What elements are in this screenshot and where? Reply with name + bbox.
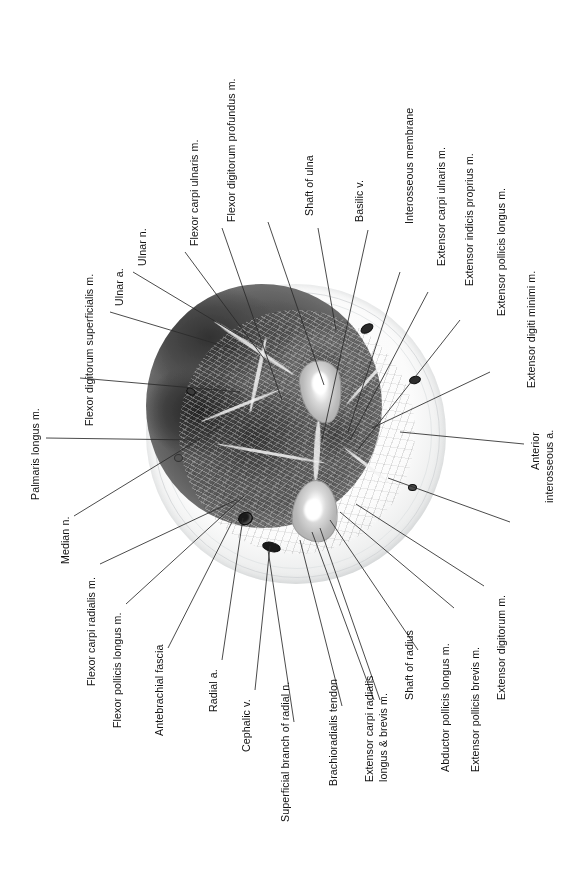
label-ecr-line1: Extensor carpi radialis [363, 675, 375, 782]
label-radial-a: Radial a. [208, 669, 220, 712]
label-extensor-digiti-minimi: Extensor digiti minimi m. [526, 271, 538, 388]
label-ulnar-n: Ulnar n. [137, 228, 149, 266]
anatomical-figure: Flexor digitorum profundus m. Flexor car… [0, 0, 583, 876]
label-aia-line2: interosseous a. [543, 430, 555, 503]
leader-palmaris-longus [46, 438, 196, 440]
label-flexor-digitorum-profundus: Flexor digitorum profundus m. [226, 78, 238, 222]
leader-basilic-v [318, 228, 336, 330]
label-interosseous-membrane: Interosseous membrane [404, 108, 416, 224]
leader-extensor-digiti-minimi [372, 372, 490, 428]
leader-extensor-digitorum [388, 478, 510, 522]
label-ecr-line2: longus & brevis m. [377, 693, 389, 782]
leader-cephalic-v [255, 546, 270, 690]
leader-radial-a [222, 518, 243, 660]
label-shaft-of-radius: Shaft of radius [404, 630, 416, 700]
leader-flexor-carpi-ulnaris [185, 252, 265, 360]
leader-extensor-carpi-ulnaris [348, 272, 400, 432]
label-flexor-digitorum-superficialis: Flexor digitorum superficialis m. [84, 274, 96, 426]
leader-fds [80, 378, 240, 392]
label-aia-line1: Anterior [529, 432, 541, 470]
leader-ulnar-n [133, 272, 243, 338]
label-cephalic-v: Cephalic v. [241, 699, 253, 752]
leader-extensor-pollicis-brevis [356, 504, 484, 586]
leader-interosseous-membrane [322, 230, 368, 440]
label-extensor-carpi-radialis-line2: longus & brevis m. [377, 693, 389, 782]
label-extensor-indicis-proprius: Extensor indicis proprius m. [464, 153, 476, 286]
label-flexor-carpi-ulnaris: Flexor carpi ulnaris m. [189, 140, 201, 247]
leader-antebrachial-fascia [168, 522, 232, 648]
label-extensor-digitorum: Extensor digitorum m. [496, 595, 508, 700]
label-extensor-pollicis-longus: Extensor pollicis longus m. [496, 188, 508, 316]
label-abductor-pollicis-longus: Abductor pollicis longus m. [440, 643, 452, 772]
label-ulnar-a: Ulnar a. [114, 268, 126, 306]
leader-extensor-pollicis-longus [356, 320, 460, 452]
leader-anterior-interosseous-a [400, 432, 524, 444]
label-antebrachial-fascia: Antebrachial fascia [154, 645, 166, 736]
label-median-n: Median n. [60, 517, 72, 564]
label-shaft-of-ulna: Shaft of ulna [304, 155, 316, 216]
label-extensor-carpi-radialis: Extensor carpi radialis [363, 675, 375, 782]
label-extensor-pollicis-brevis: Extensor pollicis brevis m. [470, 647, 482, 772]
label-extensor-carpi-ulnaris: Extensor carpi ulnaris m. [436, 147, 448, 266]
label-anterior-interosseous-a-line1: Anterior [529, 432, 541, 470]
label-brachioradialis-tendon: Brachioradialis tendon [328, 679, 340, 786]
leader-extensor-indicis-proprius [350, 292, 428, 440]
leader-median-n [74, 424, 224, 516]
label-palmaris-longus: Palmaris longus m. [30, 408, 42, 500]
label-flexor-carpi-radialis: Flexor carpi radialis m. [86, 577, 98, 686]
leader-extensor-carpi-radialis-b [320, 528, 380, 700]
label-anterior-interosseous-a-line2: interosseous a. [543, 430, 555, 503]
leader-flexor-pollicis-longus [126, 496, 244, 604]
label-basilic-v: Basilic v. [354, 180, 366, 222]
label-flexor-pollicis-longus: Flexor pollicis longus m. [112, 612, 124, 728]
leader-ulnar-a [110, 312, 237, 350]
label-superficial-branch-of-radial-n: Superficial branch of radial n. [280, 682, 292, 822]
leader-shaft-of-ulna [268, 222, 324, 385]
